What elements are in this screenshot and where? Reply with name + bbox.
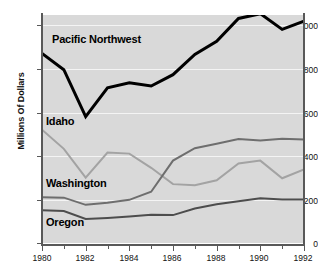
x-axis-tick-mark xyxy=(304,246,305,251)
x-axis-tick-mark xyxy=(173,246,174,251)
x-axis-minor-tick-mark xyxy=(282,246,283,249)
x-axis-minor-tick-mark xyxy=(151,246,152,249)
series-line-pacific-northwest xyxy=(42,15,304,117)
x-axis-tick-mark xyxy=(42,246,43,251)
y-axis-line xyxy=(41,13,43,245)
series-label-oregon: Oregon xyxy=(46,216,84,228)
x-axis-tick-label: 1982 xyxy=(65,253,105,263)
series-lines xyxy=(42,15,304,243)
series-label-pacific-northwest: Pacific Northwest xyxy=(52,33,141,45)
x-axis-minor-tick-mark xyxy=(64,246,65,249)
plot-area: Pacific Northwest Idaho Washington Orego… xyxy=(42,15,304,243)
x-axis-tick-label: 1992 xyxy=(283,253,318,263)
x-axis-tick-mark xyxy=(260,246,261,251)
x-axis-tick-mark xyxy=(129,246,130,251)
x-axis-minor-tick-mark xyxy=(195,246,196,249)
x-axis-tick-mark xyxy=(86,246,87,251)
y-axis-title: Millions Of Dollars xyxy=(16,46,26,176)
x-axis-tick-label: 1984 xyxy=(109,253,149,263)
x-axis-tick-mark xyxy=(217,246,218,251)
series-label-washington: Washington xyxy=(46,177,107,189)
line-chart: Millions Of Dollars 1,000 800 600 400 20… xyxy=(0,0,318,273)
series-label-idaho: Idaho xyxy=(46,115,74,127)
x-axis-tick-label: 1990 xyxy=(239,253,279,263)
x-axis-tick-label: 1988 xyxy=(196,253,236,263)
x-axis-minor-tick-mark xyxy=(239,246,240,249)
x-axis-minor-tick-mark xyxy=(108,246,109,249)
x-axis-tick-label: 1980 xyxy=(22,253,62,263)
right-axis-line xyxy=(303,13,305,245)
x-axis-tick-label: 1986 xyxy=(152,253,192,263)
